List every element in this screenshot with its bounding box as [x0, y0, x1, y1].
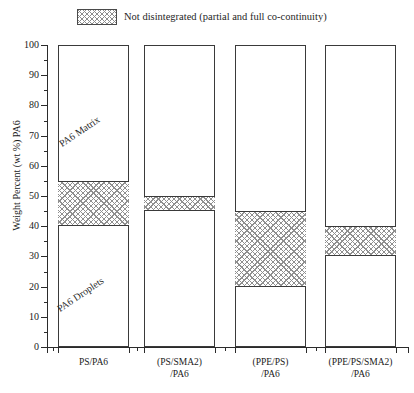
x-tick-major: [306, 347, 307, 353]
x-tick-major: [58, 347, 59, 353]
y-tick-minor: [44, 151, 48, 152]
y-tick-label: 60: [9, 161, 39, 171]
y-axis-title: Weight Percent (wt %) PA6: [11, 86, 22, 266]
y-tick-label: 10: [9, 312, 39, 322]
plot-area: 0102030405060708090100 PS/PA6(PS/SMA2) /…: [47, 45, 409, 348]
y-tick-major: [41, 75, 47, 76]
y-tick-label: 50: [9, 191, 39, 201]
y-axis-line: [47, 45, 48, 348]
y-tick-minor: [44, 121, 48, 122]
y-tick-major: [41, 105, 47, 106]
chart-legend: Not disintegrated (partial and full co-c…: [77, 8, 327, 26]
x-tick-minor: [316, 347, 317, 351]
bar-segment-not-disintegrated: [144, 196, 215, 211]
y-tick-label: 70: [9, 131, 39, 141]
y-tick-major: [41, 226, 47, 227]
y-tick-minor: [44, 272, 48, 273]
x-tick-major: [215, 347, 216, 353]
y-tick-major: [41, 136, 47, 137]
x-tick-minor: [225, 347, 226, 351]
x-tick-major: [144, 347, 145, 353]
y-tick-minor: [44, 211, 48, 212]
y-tick-minor: [44, 90, 48, 91]
y-tick-major: [41, 256, 47, 257]
y-tick-major: [41, 196, 47, 197]
y-tick-minor: [44, 241, 48, 242]
x-tick-minor: [53, 347, 54, 351]
x-axis-line: [47, 347, 409, 348]
y-tick-label: 0: [9, 342, 39, 352]
bar-segment-not-disintegrated: [235, 211, 306, 287]
legend-label: Not disintegrated (partial and full co-c…: [124, 11, 327, 23]
crosshatch-pattern-icon: [77, 9, 117, 25]
y-tick-label: 80: [9, 100, 39, 110]
y-tick-major: [41, 45, 47, 46]
y-tick-major: [41, 317, 47, 318]
bar-column: [235, 45, 306, 347]
chart-container: Not disintegrated (partial and full co-c…: [0, 0, 414, 393]
y-tick-major: [41, 287, 47, 288]
y-tick-minor: [44, 332, 48, 333]
x-tick-major: [129, 347, 130, 353]
bar-segment-not-disintegrated: [58, 181, 129, 226]
y-tick-label: 90: [9, 70, 39, 80]
x-tick-major: [325, 347, 326, 353]
y-tick-minor: [44, 60, 48, 61]
x-tick-label: (PPE/PS/SMA2) /PA6: [306, 357, 414, 380]
y-tick-minor: [44, 181, 48, 182]
y-tick-label: 40: [9, 221, 39, 231]
y-tick-label: 30: [9, 251, 39, 261]
x-tick-major: [235, 347, 236, 353]
y-tick-major: [41, 166, 47, 167]
y-tick-label: 100: [9, 40, 39, 50]
bar-segment-not-disintegrated: [325, 226, 396, 256]
x-tick-major: [47, 347, 48, 353]
bar-column: [325, 45, 396, 347]
y-tick-label: 20: [9, 282, 39, 292]
y-tick-minor: [44, 302, 48, 303]
x-tick-major: [408, 347, 409, 353]
x-tick-major: [396, 347, 397, 353]
x-tick-minor: [137, 347, 138, 351]
